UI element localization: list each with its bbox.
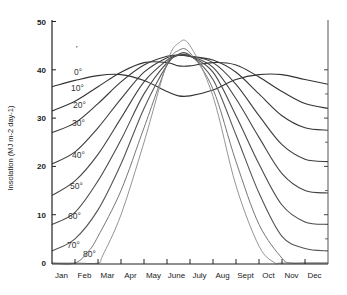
month-label: July — [192, 271, 206, 280]
latitude-label: 70° — [67, 240, 80, 250]
y-tick-label: 20 — [37, 162, 46, 171]
latitude-label: 50° — [70, 181, 83, 191]
month-label: June — [168, 271, 186, 280]
curve-lat-50 — [52, 54, 328, 224]
latitude-label: 0° — [74, 67, 82, 77]
month-label: Nov — [284, 271, 298, 280]
curve-lat-60 — [52, 53, 328, 251]
curve-lat-80 — [52, 40, 328, 264]
latitude-label: 30° — [72, 118, 85, 128]
month-label: Oct — [262, 271, 275, 280]
y-tick-label: 50 — [37, 18, 46, 27]
y-tick-label: 40 — [37, 66, 46, 75]
curve-lat-0 — [52, 74, 328, 97]
month-label: Aug — [215, 271, 229, 280]
y-axis-label: Insolation (MJ m-2 day-1) — [6, 105, 15, 191]
month-label: Dec — [307, 271, 321, 280]
latitude-label: 40° — [72, 150, 85, 160]
latitude-label: 60° — [68, 211, 81, 221]
y-tick-label: 30 — [37, 114, 46, 123]
curve-lat-10 — [52, 62, 328, 111]
month-label: Mar — [101, 271, 115, 280]
latitude-curves — [52, 40, 328, 264]
latitude-label: 10° — [71, 83, 84, 93]
curve-lat-70 — [52, 49, 328, 264]
latitude-label: 80° — [83, 249, 96, 259]
y-tick-label: 0 — [42, 259, 47, 268]
insolation-chart: 01020304050 JanFebMarAprMayJuneJulyAugSe… — [0, 0, 347, 295]
x-ticks: JanFebMarAprMayJuneJulyAugSeptOctNovDec — [55, 259, 322, 280]
month-label: May — [146, 271, 161, 280]
month-label: Apr — [124, 271, 137, 280]
curve-lat-30 — [52, 55, 328, 164]
month-label: Sept — [237, 271, 254, 280]
latitude-labels: 0°10°20°30°40°50°60°70°80° — [67, 46, 96, 259]
month-label: Feb — [78, 271, 92, 280]
y-tick-label: 10 — [37, 211, 46, 220]
speck — [76, 46, 78, 48]
month-label: Jan — [55, 271, 68, 280]
latitude-label: 20° — [73, 100, 86, 110]
